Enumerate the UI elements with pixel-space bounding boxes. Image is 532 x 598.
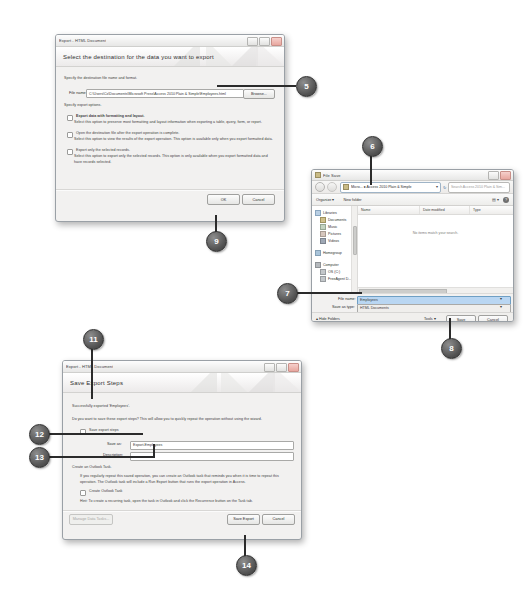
filetype-dropdown-icon[interactable]: ▾ [500, 305, 502, 309]
open-destination-checkbox[interactable] [67, 132, 73, 138]
view-mode-icon[interactable]: ▤ ▾ [492, 197, 499, 202]
maximize-button[interactable] [259, 37, 270, 46]
browse-button[interactable]: Browse... [243, 89, 275, 99]
nav-label: OS (C:) [328, 270, 340, 274]
file-list-header[interactable]: Name Date modified Type [358, 206, 513, 215]
save-export-steps-dialog[interactable]: Export - HTML Document Save Export Steps… [62, 360, 302, 540]
organize-button[interactable]: Organize ▾ [316, 197, 334, 202]
filename-input[interactable]: C:\Users\Cx\Documents\Microsoft Press\Ac… [86, 89, 244, 98]
export-dialog-banner: Select the destination for the data you … [56, 47, 284, 67]
folder-icon [320, 217, 326, 223]
nav-scroll-thumb[interactable] [353, 226, 357, 255]
cancel-button[interactable]: Cancel [242, 194, 275, 205]
save-steps-titlebar[interactable]: Export - HTML Document [63, 361, 301, 373]
ok-button[interactable]: OK [207, 194, 240, 205]
open-destination-description: Select this option to view the results o… [74, 137, 274, 143]
save-export-button[interactable]: Save Export [227, 514, 260, 525]
export-options-section-label: Specify export options. [64, 103, 102, 109]
hide-folders-button[interactable]: ▴ Hide Folders [316, 317, 340, 321]
maximize-button[interactable] [276, 363, 287, 372]
banner-decor-4 [273, 373, 301, 392]
search-input[interactable]: Search Access 2010 Plain & Sim... [448, 182, 510, 193]
file-save-dialog[interactable]: File Save Micro... ▸ Access 2010 Plain &… [311, 169, 514, 322]
nav-label: Computer [323, 263, 339, 267]
callout-6: 6 [362, 136, 383, 157]
minimize-button[interactable] [247, 37, 258, 46]
folder-icon [343, 184, 349, 190]
success-message: Successfully exported 'Employees'. [72, 404, 130, 410]
export-selected-checkbox[interactable] [67, 149, 73, 155]
leader-line-13b [153, 444, 155, 458]
cancel-button[interactable]: Cancel [478, 315, 508, 322]
leader-line-12 [47, 433, 143, 435]
nav-pane-scrollbar[interactable] [351, 206, 357, 293]
create-outlook-task-checkbox[interactable] [80, 490, 86, 496]
refresh-icon[interactable]: ↻ [443, 185, 446, 190]
tools-button[interactable]: Tools ▾ [424, 317, 436, 321]
nav-label: Libraries [323, 211, 337, 215]
callout-11: 11 [83, 329, 104, 350]
window-controls[interactable] [264, 363, 299, 372]
cancel-button[interactable]: Cancel [262, 514, 295, 525]
minimize-button[interactable] [264, 363, 275, 372]
address-bar[interactable]: Micro... ▸ Access 2010 Plain & Simple ▾ [340, 182, 441, 193]
close-icon[interactable] [500, 171, 511, 180]
callout-12: 12 [29, 424, 50, 445]
export-formatting-description: Select this option to preserve most form… [74, 120, 274, 126]
drive-icon [320, 269, 326, 275]
nav-label: Documents [328, 218, 346, 222]
empty-list-message: No items match your search. [358, 231, 513, 235]
callout-5: 5 [296, 76, 317, 97]
navigation-pane[interactable]: Libraries Documents Music Pictures Video… [312, 206, 358, 293]
file-save-window-controls[interactable] [488, 171, 511, 180]
leader-line-13 [47, 456, 155, 458]
file-list-pane[interactable]: Name Date modified Type No items match y… [358, 206, 513, 293]
video-icon [320, 238, 326, 244]
save-as-label: Save as: [107, 442, 122, 446]
library-icon [315, 210, 321, 216]
back-button[interactable] [315, 182, 325, 192]
music-icon [320, 224, 326, 230]
column-type[interactable]: Type [470, 206, 508, 214]
callout-8: 8 [441, 338, 462, 359]
close-icon[interactable] [271, 37, 282, 46]
minimize-button[interactable] [488, 171, 499, 180]
export-formatting-checkbox[interactable] [67, 115, 73, 121]
banner-decor-3 [232, 47, 258, 66]
help-icon[interactable]: ? [503, 197, 509, 203]
save-steps-banner: Save Export Steps [63, 373, 301, 393]
chevron-down-icon[interactable]: ▾ [436, 185, 438, 189]
banner-decor-1 [191, 373, 217, 392]
computer-icon [315, 262, 321, 268]
save-steps-banner-title: Save Export Steps [63, 380, 123, 386]
filename-label: File name: [69, 91, 87, 95]
file-save-titlebar[interactable]: File Save [312, 170, 513, 181]
export-dialog-titlebar[interactable]: Export - HTML Document [56, 35, 284, 47]
export-html-document-dialog[interactable]: Export - HTML Document Select the destin… [55, 34, 285, 222]
callout-14: 14 [236, 555, 257, 576]
manage-data-tasks-button[interactable]: Manage Data Tasks... [69, 514, 113, 525]
file-save-navigation-bar[interactable]: Micro... ▸ Access 2010 Plain & Simple ▾ … [312, 181, 513, 194]
close-icon[interactable] [288, 363, 299, 372]
file-save-content: Libraries Documents Music Pictures Video… [312, 206, 513, 293]
column-date-modified[interactable]: Date modified [420, 206, 470, 214]
file-save-fields: File name: Employees ▾ Save as type: HTM… [312, 293, 513, 312]
destination-section-label: Specify the destination file name and fo… [64, 76, 137, 82]
nav-label: FreeAgent D... [328, 277, 351, 281]
outlook-task-group-label: Create an Outlook Task. [72, 465, 112, 471]
export-selected-description: Select this option to export only the se… [74, 154, 274, 165]
window-controls[interactable] [247, 37, 282, 46]
recurring-task-hint: Hint: To create a recurring task, open t… [80, 499, 294, 505]
filename-dropdown-icon[interactable]: ▾ [500, 297, 502, 301]
nav-label: Music [328, 225, 337, 229]
drive-icon [320, 276, 326, 282]
create-outlook-task-row[interactable]: Create Outlook Task [80, 489, 122, 496]
save-steps-divider [63, 510, 301, 512]
save-steps-title: Export - HTML Document [66, 364, 113, 369]
new-folder-button[interactable]: New folder [343, 198, 361, 202]
folder-icon [315, 172, 321, 178]
column-name[interactable]: Name [358, 206, 420, 214]
file-save-toolbar[interactable]: Organize ▾ New folder ▤ ▾ ? [312, 194, 513, 206]
file-save-footer: ▴ Hide Folders Tools ▾ Save Cancel [312, 312, 513, 322]
forward-button[interactable] [327, 182, 337, 192]
